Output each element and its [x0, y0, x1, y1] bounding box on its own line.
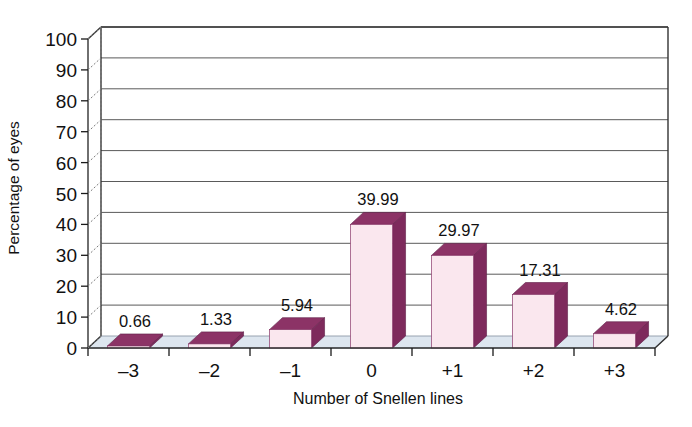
y-tick-label-100: 100 [45, 29, 77, 50]
x-tick-label-2: –1 [280, 360, 301, 381]
x-tick-label-3: 0 [366, 360, 377, 381]
y-tick-label-70: 70 [56, 122, 77, 143]
y-tick-label-40: 40 [56, 214, 77, 235]
y-tick-label-50: 50 [56, 184, 77, 205]
x-tick-label-4: +1 [442, 360, 464, 381]
bar-2 [269, 318, 324, 348]
bar-3 [350, 212, 405, 348]
snellen-lines-bar-chart: 0102030405060708090100 –3–2–10+1+2+3 4.6… [0, 0, 692, 427]
bar-side-face-3 [393, 212, 406, 348]
y-axis-title: Percentage of eyes [5, 121, 22, 255]
x-tick-label-1: –2 [199, 360, 220, 381]
data-label-0: 0.66 [119, 312, 151, 330]
bar-front-face-5 [512, 295, 554, 348]
bar-front-face-4 [431, 255, 473, 348]
y-tick-label-0: 0 [66, 338, 77, 359]
bar-5 [512, 283, 567, 348]
bar-front-face-2 [269, 330, 311, 348]
bar-front-face-6 [593, 334, 635, 348]
y-tick-label-90: 90 [56, 60, 77, 81]
y-tick-label-60: 60 [56, 153, 77, 174]
x-tick-label-0: –3 [118, 360, 139, 381]
bar-side-face-4 [474, 243, 487, 348]
chart-figure: 0102030405060708090100 –3–2–10+1+2+3 4.6… [0, 0, 692, 427]
y-tick-label-10: 10 [56, 307, 77, 328]
data-label-2: 5.94 [281, 296, 313, 314]
y-tick-label-80: 80 [56, 91, 77, 112]
data-label-3: 39.99 [357, 190, 398, 208]
y-tick-label-20: 20 [56, 276, 77, 297]
y-axis: 0102030405060708090100 [45, 29, 88, 359]
data-label-4: 29.97 [438, 221, 479, 239]
x-axis-title: Number of Snellen lines [293, 390, 463, 407]
data-label-1: 1.33 [200, 310, 232, 328]
data-label-6: 4.62 [605, 300, 637, 318]
x-tick-label-5: +2 [523, 360, 545, 381]
bar-4 [431, 243, 486, 348]
figure-caption-ghost [0, 414, 692, 427]
y-tick-label-30: 30 [56, 245, 77, 266]
x-tick-label-6: +3 [604, 360, 626, 381]
x-axis: –3–2–10+1+2+3 [88, 348, 655, 381]
data-label-5: 17.31 [519, 261, 560, 279]
bar-front-face-3 [350, 224, 392, 348]
